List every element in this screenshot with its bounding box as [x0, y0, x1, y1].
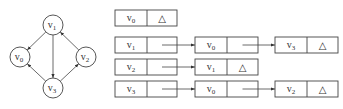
head-node: [115, 10, 177, 26]
edge-node: [275, 37, 338, 53]
null-pointer-icon: △: [158, 13, 166, 24]
edge-node: [275, 81, 338, 97]
edge-node: [195, 59, 258, 75]
null-pointer-icon: △: [319, 84, 327, 95]
vertex-v2: v2: [76, 47, 96, 67]
adjacency-row: v0△: [115, 10, 177, 26]
directed-graph: v0v1v2v3: [10, 15, 96, 98]
adjacency-row: v1v0v3△: [115, 37, 338, 53]
null-pointer-icon: △: [319, 40, 327, 51]
vertex-v0: v0: [10, 47, 30, 67]
adjacency-row: v2v1△: [115, 59, 258, 75]
vertex-v1: v1: [43, 15, 63, 35]
diagram-canvas: v0v1v2v3 v0△v1v0v3△v2v1△v3v0v2△: [0, 0, 343, 109]
edge-v2-v1: [60, 32, 79, 50]
adjacency-list: v0△v1v0v3△v2v1△v3v0v2△: [115, 10, 338, 97]
edge-v1-v0: [27, 32, 46, 50]
null-pointer-icon: △: [239, 62, 247, 73]
edge-v3-v2: [60, 64, 78, 81]
adjacency-row: v3v0v2△: [115, 81, 338, 97]
vertex-v3: v3: [43, 78, 63, 98]
edge-v3-v0: [27, 64, 45, 81]
